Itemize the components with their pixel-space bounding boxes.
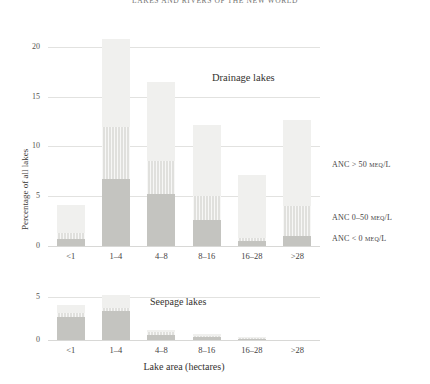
x-axis-tick-label: <1 bbox=[48, 345, 93, 355]
x-axis-tick-label: <1 bbox=[48, 251, 93, 261]
bar bbox=[57, 205, 85, 246]
y-axis-tick-label: 15 bbox=[14, 92, 40, 101]
y-axis-tick-label: 20 bbox=[14, 42, 40, 51]
y-axis-tick-label: 0 bbox=[14, 335, 40, 344]
legend-label-anc-mid: ANC 0–50 µeq/L bbox=[332, 213, 392, 222]
bar-segment-anc-mid bbox=[57, 233, 85, 239]
gridline bbox=[48, 47, 320, 48]
x-axis-tick-label: 16–28 bbox=[229, 345, 274, 355]
bar-segment-anc-low bbox=[238, 241, 266, 246]
legend-label-anc-low: ANC < 0 µeq/L bbox=[332, 234, 386, 243]
bar-segment-anc-low bbox=[147, 194, 175, 246]
bar-segment-anc-mid bbox=[193, 336, 221, 338]
bar bbox=[102, 295, 130, 340]
bar-segment-anc-high bbox=[102, 39, 130, 127]
bar-segment-anc-low bbox=[193, 337, 221, 340]
bar-segment-anc-mid bbox=[147, 332, 175, 335]
drainage-lakes-panel bbox=[48, 32, 320, 246]
bar-segment-anc-high bbox=[283, 120, 311, 207]
bar bbox=[147, 330, 175, 340]
bar bbox=[283, 120, 311, 246]
bar-segment-anc-high bbox=[193, 334, 221, 336]
gridline bbox=[48, 97, 320, 98]
figure-title: LAKES AND RIVERS OF THE NEW WORLD bbox=[0, 0, 430, 5]
bar-segment-anc-low bbox=[102, 179, 130, 246]
bar-segment-anc-high bbox=[57, 305, 85, 313]
x-axis-tick-label: 4–8 bbox=[139, 345, 184, 355]
bar-segment-anc-low bbox=[193, 220, 221, 246]
legend-label-anc-high: ANC > 50 µeq/L bbox=[332, 160, 391, 169]
bar bbox=[193, 125, 221, 246]
x-axis-tick-label: 4–8 bbox=[139, 251, 184, 261]
bar-segment-anc-mid bbox=[102, 127, 130, 180]
y-axis-title: Percentage of all lakes bbox=[20, 149, 30, 230]
bar-segment-anc-low bbox=[57, 239, 85, 246]
bar-segment-anc-mid bbox=[238, 338, 266, 339]
x-axis-tick-label: >28 bbox=[275, 251, 320, 261]
bar-segment-anc-low bbox=[57, 317, 85, 340]
bar bbox=[147, 82, 175, 246]
bar-segment-anc-mid bbox=[283, 206, 311, 236]
x-axis-tick-label: 1–4 bbox=[93, 251, 138, 261]
bar-segment-anc-high bbox=[57, 205, 85, 233]
x-axis-tick-label: 16–28 bbox=[229, 251, 274, 261]
bar-segment-anc-high bbox=[238, 175, 266, 238]
bar bbox=[57, 305, 85, 340]
bar-segment-anc-mid bbox=[193, 196, 221, 220]
bar-segment-anc-mid bbox=[102, 308, 130, 311]
y-axis-tick-label: 5 bbox=[14, 292, 40, 301]
bar-segment-anc-high bbox=[193, 125, 221, 197]
gridline bbox=[48, 196, 320, 197]
x-axis-title: Lake area (hectares) bbox=[48, 361, 320, 372]
bar-segment-anc-low bbox=[147, 335, 175, 340]
bar-segment-anc-high bbox=[147, 330, 175, 333]
x-axis-tick-label: >28 bbox=[275, 345, 320, 355]
bar-segment-anc-low bbox=[238, 339, 266, 340]
bar-segment-anc-low bbox=[102, 311, 130, 340]
gridline bbox=[48, 246, 320, 247]
x-axis-tick-label: 8–16 bbox=[184, 251, 229, 261]
gridline bbox=[48, 146, 320, 147]
y-axis-tick-label: 0 bbox=[14, 241, 40, 250]
bar bbox=[102, 39, 130, 246]
x-axis-tick-label: 8–16 bbox=[184, 345, 229, 355]
drainage-lakes-label: Drainage lakes bbox=[212, 72, 275, 83]
bar-segment-anc-low bbox=[283, 236, 311, 246]
bar-segment-anc-mid bbox=[57, 313, 85, 317]
bar-segment-anc-mid bbox=[238, 238, 266, 241]
bar-segment-anc-high bbox=[147, 82, 175, 162]
bar-segment-anc-high bbox=[102, 295, 130, 309]
bar-segment-anc-mid bbox=[147, 161, 175, 194]
seepage-lakes-label: Seepage lakes bbox=[150, 296, 206, 307]
bar bbox=[238, 175, 266, 246]
gridline bbox=[48, 340, 320, 341]
bar bbox=[193, 334, 221, 340]
x-axis-tick-label: 1–4 bbox=[93, 345, 138, 355]
bar bbox=[238, 337, 266, 340]
